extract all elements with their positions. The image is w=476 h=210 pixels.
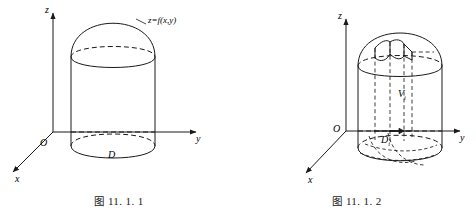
figure-11-1-1: z y x O D z=f(x,y) 图 11. 1. 1 — [0, 0, 238, 210]
z-axis-label: z — [44, 4, 49, 15]
subregion-subscript: i — [388, 140, 390, 147]
z-axis-label: z — [337, 10, 342, 21]
x-axis — [306, 131, 346, 173]
dome-base-front-arc — [71, 57, 155, 68]
figure-11-1-2-caption: 图 11. 1. 2 — [238, 193, 476, 208]
dome-base-front-arc — [358, 66, 442, 77]
curved-top-surface — [71, 23, 155, 57]
origin-label: O — [333, 123, 340, 134]
caption-number: 11. 1. 2 — [346, 195, 382, 207]
figure-sheet: z y x O D z=f(x,y) 图 11. 1. 1 — [0, 0, 476, 210]
y-axis-label: y — [459, 132, 465, 143]
base-partition-grid — [360, 133, 437, 165]
dome-base-back-arc — [358, 56, 442, 67]
curved-top-surface — [358, 33, 442, 66]
figure-11-1-2-drawing: z y x O Vi Di — [238, 0, 476, 190]
base-ellipse-back-arc — [71, 134, 155, 146]
figure-11-1-2: z y x O Vi Di 图 11. 1. 2 — [238, 0, 476, 210]
y-axis-label: y — [195, 133, 201, 144]
figure-11-1-1-drawing: z y x O D z=f(x,y) — [0, 0, 238, 190]
caption-prefix: 图 — [332, 195, 342, 207]
caption-prefix: 图 — [94, 195, 104, 207]
region-label: D — [107, 149, 116, 160]
origin-label: O — [40, 137, 47, 148]
figure-11-1-1-caption: 图 11. 1. 1 — [0, 193, 238, 208]
surface-equation-label: z=f(x,y) — [147, 15, 176, 25]
caption-number: 11. 1. 1 — [108, 195, 144, 207]
subcolumn-top-prism — [375, 40, 412, 61]
dome-base-back-arc — [71, 47, 155, 58]
subvolume-label: Vi — [398, 88, 406, 101]
base-ellipse-front-arc — [358, 148, 442, 161]
x-axis-label: x — [307, 174, 313, 185]
subvolume-subscript: i — [404, 94, 406, 101]
surface-label-leader — [136, 19, 146, 24]
x-axis-label: x — [14, 173, 20, 184]
di-pointer-arrow — [389, 128, 404, 133]
